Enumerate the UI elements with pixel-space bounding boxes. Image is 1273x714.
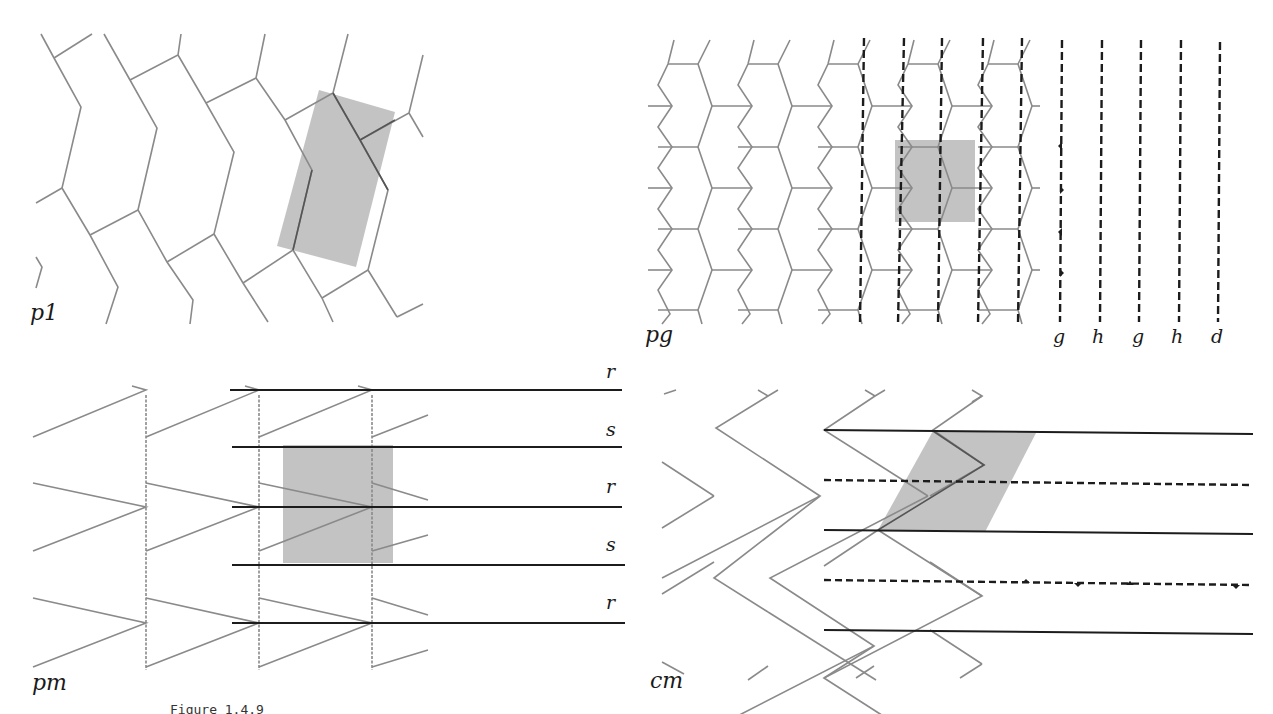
pg-axis-label-4: h (1171, 325, 1183, 347)
pm-line-label-4: s (606, 533, 616, 555)
panel-cm: cm (640, 350, 1273, 713)
pm-tiling (0, 350, 640, 680)
pm-line-label-5: r (606, 591, 615, 613)
pm-line-label-3: r (606, 475, 615, 497)
figure-caption: Figure 1.4.9 (170, 700, 264, 714)
cm-glide-markers (1022, 579, 1240, 589)
pm-fundamental-cell (283, 445, 393, 563)
pg-glide-axes-standalone (1060, 40, 1220, 322)
panel-p1: p1 (0, 0, 440, 340)
panel-pg: g h g h d pg (640, 0, 1273, 340)
pg-axis-label-5: d (1211, 325, 1223, 347)
cm-tiling (640, 350, 1273, 713)
cm-label: cm (650, 668, 683, 693)
pg-label: pg (645, 322, 673, 347)
pm-line-label-1: r (606, 360, 615, 382)
pg-axis-label-3: g (1132, 325, 1144, 347)
cm-mirror-lines (824, 430, 1253, 634)
pg-tiling (640, 0, 1273, 340)
pg-axis-label-2: h (1092, 325, 1104, 347)
p1-label: p1 (30, 300, 58, 325)
p1-tiling (0, 0, 440, 340)
pg-axis-label-1: g (1053, 325, 1065, 347)
panel-pm: r s r s r pm (0, 350, 640, 680)
pm-line-label-2: s (606, 418, 616, 440)
pm-label: pm (32, 670, 67, 695)
